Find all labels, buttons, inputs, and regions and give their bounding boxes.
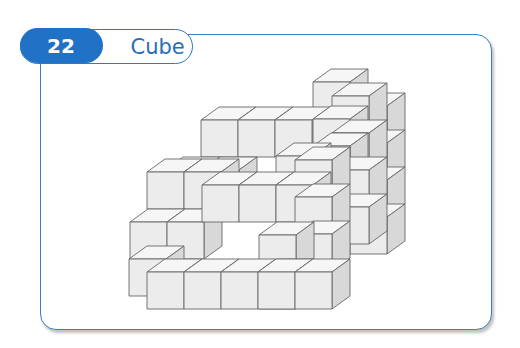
cube-diagram bbox=[0, 0, 520, 348]
